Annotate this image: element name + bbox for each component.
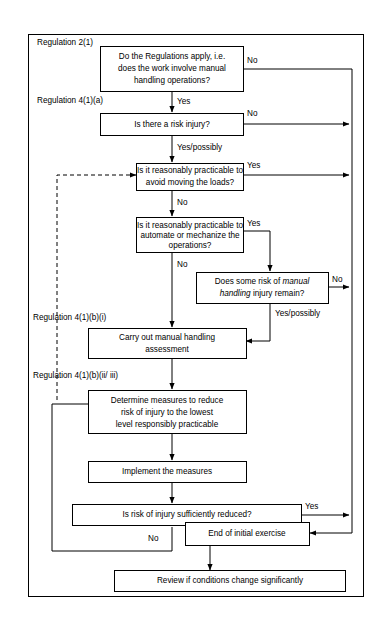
section-label-reg-4-1-b-i: Regulation 4(1)(b)(i) <box>33 313 107 322</box>
node-automate-mechanize-line-3: operations? <box>169 241 212 250</box>
node-automate-mechanize-line-2: automate or mechanize the <box>140 231 240 240</box>
edge-label-risk-reduced-yes: Yes <box>305 502 318 511</box>
node-determine-measures[interactable]: Determine measures to reduce risk of inj… <box>89 391 247 434</box>
edge-label-regulations-apply-yes: Yes <box>177 97 190 106</box>
node-regulations-apply[interactable]: Do the Regulations apply, i.e. does the … <box>101 47 244 92</box>
node-risk-remains-seg-1-a: Does some risk of <box>215 277 283 286</box>
node-risk-injury-line-1: Is there a risk injury? <box>134 120 210 129</box>
node-implement-measures[interactable]: Implement the measures <box>89 462 247 483</box>
node-avoid-moving-loads[interactable]: Is it reasonably practicable to avoid mo… <box>137 164 244 191</box>
node-avoid-moving-loads-line-2: avoid moving the loads? <box>146 178 235 187</box>
node-carry-out-assessment[interactable]: Carry out manual handling assessment <box>89 329 247 359</box>
edge-label-automate-yes: Yes <box>247 219 260 228</box>
node-risk-remains-line-1: Does some risk of manual <box>215 277 310 286</box>
node-regulations-apply-line-2: does the work involve manual <box>118 64 226 73</box>
edge-label-regulations-apply-no: No <box>247 56 258 65</box>
edge-label-risk-injury-no: No <box>247 109 258 118</box>
node-end-initial-exercise-line-1: End of initial exercise <box>208 529 286 538</box>
section-label-reg-2-1: Regulation 2(1) <box>37 38 93 47</box>
edge-label-automate-no: No <box>177 260 188 269</box>
section-label-reg-4-1-b-ii-iii: Regulation 4(1)(b)(ii/ iii) <box>33 371 118 380</box>
flowchart-canvas: Regulation 2(1) Regulation 4(1)(a) Regul… <box>0 0 383 620</box>
node-carry-out-assessment-line-1: Carry out manual handling <box>119 333 215 342</box>
node-risk-remains-seg-2-a: handling <box>220 289 251 298</box>
node-review-conditions[interactable]: Review if conditions change significantl… <box>115 571 346 592</box>
section-label-reg-4-1-a: Regulation 4(1)(a) <box>37 96 103 105</box>
node-carry-out-assessment-line-2: assessment <box>145 345 189 354</box>
node-review-conditions-line-1: Review if conditions change significantl… <box>157 576 304 585</box>
node-regulations-apply-line-1: Do the Regulations apply, i.e. <box>119 52 225 61</box>
node-risk-remains[interactable]: Does some risk of manual handling injury… <box>197 273 329 304</box>
edge-label-risk-remains-no: No <box>332 275 343 284</box>
node-determine-measures-line-3: level responsibly practicable <box>116 420 219 429</box>
edge-label-risk-remains-yes: Yes/possibly <box>275 309 321 318</box>
node-risk-remains-line-2: handling injury remain? <box>220 289 305 298</box>
node-determine-measures-line-2: risk of injury to the lowest <box>121 408 214 417</box>
node-automate-mechanize[interactable]: Is it reasonably practicable to automate… <box>137 218 244 253</box>
edge-label-risk-injury-yes: Yes/possibly <box>177 143 223 152</box>
node-end-initial-exercise[interactable]: End of initial exercise <box>186 523 310 546</box>
node-implement-measures-line-1: Implement the measures <box>122 467 212 476</box>
edge-label-risk-reduced-no: No <box>148 534 159 543</box>
node-risk-sufficiently-reduced-line-1: Is risk of injury sufficiently reduced? <box>122 510 252 519</box>
node-risk-injury[interactable]: Is there a risk injury? <box>101 114 244 136</box>
flowchart-diagram: Regulation 2(1) Regulation 4(1)(a) Regul… <box>0 0 383 620</box>
node-automate-mechanize-line-1: Is it reasonably practicable to <box>137 221 243 230</box>
node-determine-measures-line-1: Determine measures to reduce <box>111 396 224 405</box>
node-risk-remains-seg-1-b: manual <box>282 277 309 286</box>
node-regulations-apply-line-3: handling operations? <box>134 76 210 85</box>
edge-label-avoid-moving-loads-no: No <box>177 198 188 207</box>
node-avoid-moving-loads-line-1: Is it reasonably practicable to <box>137 166 243 175</box>
node-risk-remains-seg-2-b: injury remain? <box>251 289 305 298</box>
edge-label-avoid-moving-loads-yes: Yes <box>247 161 260 170</box>
